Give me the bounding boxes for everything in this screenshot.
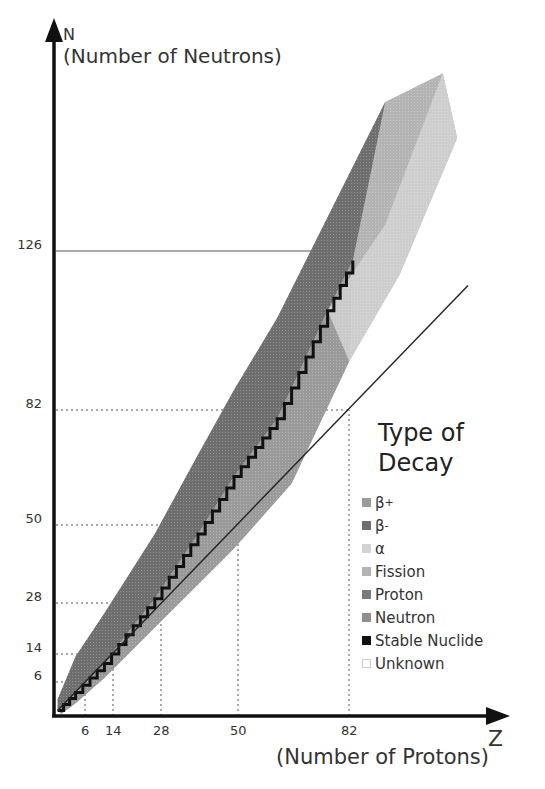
legend-swatch-icon bbox=[362, 521, 371, 530]
legend-item: β- bbox=[362, 514, 483, 537]
y-axis-symbol: N bbox=[63, 25, 75, 44]
legend-label: α bbox=[375, 540, 385, 558]
legend-label: β bbox=[375, 494, 385, 512]
legend-item: Proton bbox=[362, 583, 483, 606]
x-tick-label: 82 bbox=[341, 723, 358, 738]
y-tick-label: 126 bbox=[17, 237, 42, 252]
legend-swatch-icon bbox=[362, 544, 371, 553]
legend-title: Type of Decay bbox=[378, 418, 498, 478]
legend-swatch-icon bbox=[362, 498, 371, 507]
y-tick-label: 6 bbox=[34, 668, 42, 683]
x-tick-label: 50 bbox=[230, 723, 247, 738]
x-axis-title: (Number of Protons) bbox=[276, 745, 489, 769]
legend-swatch-icon bbox=[362, 567, 371, 576]
x-tick-label: 14 bbox=[105, 723, 122, 738]
legend-item: β+ bbox=[362, 491, 483, 514]
x-axis-symbol: Z bbox=[488, 726, 503, 751]
legend-swatch-icon bbox=[362, 636, 371, 645]
legend-swatch-icon bbox=[362, 659, 371, 668]
x-tick-label: 28 bbox=[153, 723, 170, 738]
y-tick-label: 14 bbox=[25, 640, 42, 655]
y-tick-label: 82 bbox=[25, 396, 42, 411]
legend-label: Unknown bbox=[375, 655, 445, 673]
legend-item: Neutron bbox=[362, 606, 483, 629]
legend-swatch-icon bbox=[362, 590, 371, 599]
legend-item: Stable Nuclide bbox=[362, 629, 483, 652]
legend-item: α bbox=[362, 537, 483, 560]
legend-label: β bbox=[375, 517, 385, 535]
legend-label: Stable Nuclide bbox=[375, 632, 483, 650]
x-axis-arrow-icon bbox=[486, 707, 510, 725]
legend-label: Proton bbox=[375, 586, 423, 604]
legend: β+β-αFissionProtonNeutronStable NuclideU… bbox=[362, 491, 483, 675]
legend-item: Fission bbox=[362, 560, 483, 583]
legend-swatch-icon bbox=[362, 613, 371, 622]
x-tick-label: 6 bbox=[81, 723, 89, 738]
y-tick-label: 50 bbox=[25, 511, 42, 526]
y-axis-arrow-icon bbox=[45, 18, 63, 42]
y-axis-title: (Number of Neutrons) bbox=[63, 44, 282, 68]
legend-item: Unknown bbox=[362, 652, 483, 675]
legend-label: Fission bbox=[375, 563, 425, 581]
legend-label: Neutron bbox=[375, 609, 435, 627]
y-tick-label: 28 bbox=[25, 589, 42, 604]
